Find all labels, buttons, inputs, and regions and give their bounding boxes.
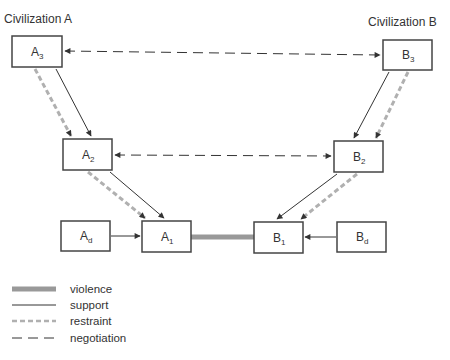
civilization-b-title: Civilization B: [368, 15, 437, 29]
legend-label-restraint: restraint: [70, 315, 112, 327]
node-a1: A1: [142, 221, 191, 252]
edge-b2-b1-restraint: [301, 174, 357, 219]
node-bd: Bd: [337, 222, 386, 252]
node-b1: B1: [254, 222, 303, 253]
civilization-a-title: Civilization A: [4, 12, 72, 26]
edge-a3-a2-support: [56, 69, 91, 136]
node-a3: A3: [12, 36, 62, 67]
legend-label-negotiation: negotiation: [70, 332, 126, 344]
edge-b3-b2-support: [354, 72, 389, 138]
node-ad: Ad: [61, 221, 110, 251]
edge-a3-b3-negotiation: [65, 51, 380, 55]
node-b3: B3: [383, 40, 432, 70]
legend: violence support restraint negotiation: [12, 283, 126, 344]
legend-label-violence: violence: [70, 283, 112, 295]
civilization-diagram: Civilization A Civilization B A3 B3 A2 B…: [0, 0, 450, 360]
legend-label-support: support: [70, 299, 109, 311]
node-b2: B2: [334, 141, 383, 172]
edge-b3-b2-restraint: [376, 72, 408, 138]
edge-a2-b2-negotiation: [115, 155, 331, 156]
edge-a3-a2-restraint: [35, 69, 71, 136]
edge-a2-a1-support: [110, 172, 164, 218]
node-a2: A2: [63, 139, 112, 170]
